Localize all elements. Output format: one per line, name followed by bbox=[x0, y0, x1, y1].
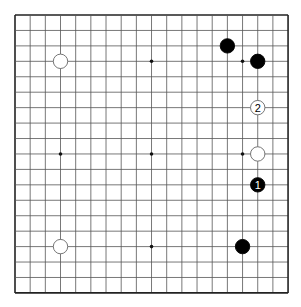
black-stone bbox=[235, 239, 249, 253]
star-point bbox=[150, 245, 154, 249]
white-stone: 2 bbox=[251, 100, 265, 114]
star-point bbox=[241, 60, 245, 64]
star-point bbox=[150, 152, 154, 156]
star-point bbox=[241, 152, 245, 156]
white-stone bbox=[251, 147, 265, 161]
black-stone bbox=[220, 39, 234, 53]
star-point bbox=[59, 152, 63, 156]
go-board: 21 bbox=[0, 0, 301, 307]
star-point bbox=[150, 60, 154, 64]
white-stone bbox=[53, 239, 67, 253]
black-stone: 1 bbox=[251, 178, 265, 192]
move-number: 1 bbox=[255, 179, 261, 191]
white-stone bbox=[53, 54, 67, 68]
move-number: 2 bbox=[255, 102, 261, 114]
stones: 21 bbox=[53, 39, 265, 254]
black-stone bbox=[251, 54, 265, 68]
